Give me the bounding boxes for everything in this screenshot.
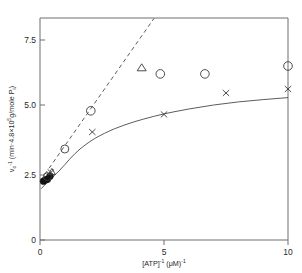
data-point bbox=[89, 129, 95, 135]
x-axis-title: [ATP]-1 (μM)-1 bbox=[142, 258, 186, 268]
series-open-triangle bbox=[48, 64, 146, 175]
data-point bbox=[137, 64, 146, 71]
x-tick-label-10: 10 bbox=[283, 247, 293, 257]
y-axis-title-tail: g/mole P bbox=[7, 89, 16, 118]
data-point bbox=[156, 70, 165, 79]
x-axis-title-base1: [ATP] bbox=[142, 259, 159, 268]
y-axis-tick-labels: 0 2.5 5.0 7.5 bbox=[24, 35, 36, 245]
plot-frame bbox=[40, 18, 288, 240]
y-axis-title: vo-1 (min·4.8×105g/mole Pi) bbox=[6, 86, 16, 172]
chart-canvas: 0 2.5 5.0 7.5 0 5 10 [ATP]-1 (μM)-1 vo-1… bbox=[0, 0, 302, 273]
frame-border bbox=[40, 18, 288, 240]
y-tick-label-2p5: 2.5 bbox=[24, 170, 36, 180]
y-tick-label-5p0: 5.0 bbox=[24, 100, 36, 110]
y-axis-ticks bbox=[40, 40, 45, 240]
figure-container: 0 2.5 5.0 7.5 0 5 10 [ATP]-1 (μM)-1 vo-1… bbox=[0, 0, 302, 273]
x-axis-title-base2: (μM) bbox=[164, 259, 181, 268]
series-cross bbox=[48, 86, 292, 175]
x-axis-ticks bbox=[40, 240, 288, 245]
x-tick-label-0: 0 bbox=[38, 247, 43, 257]
x-axis-title-sup2: -1 bbox=[181, 258, 186, 264]
y-tick-label-7p5: 7.5 bbox=[24, 35, 36, 45]
data-point bbox=[223, 90, 229, 96]
x-axis-tick-labels: 0 5 10 bbox=[38, 247, 293, 257]
x-tick-label-5: 5 bbox=[162, 247, 167, 257]
y-axis-title-close: ) bbox=[7, 86, 16, 88]
data-point bbox=[201, 70, 210, 79]
series-open-circle bbox=[43, 62, 292, 181]
data-point bbox=[87, 107, 96, 116]
y-tick-label-0: 0 bbox=[31, 235, 36, 245]
y-axis-title-mid: (min·4.8×10 bbox=[7, 121, 16, 162]
